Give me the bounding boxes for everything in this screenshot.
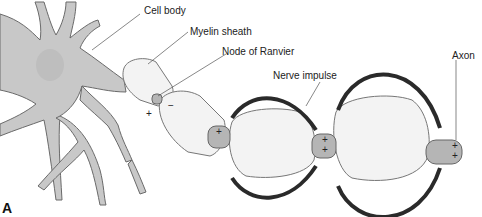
label-axon: Axon [452, 50, 475, 61]
panel-letter: A [2, 200, 12, 216]
label-nerve-impulse: Nerve impulse [273, 70, 337, 81]
nucleus [36, 49, 64, 81]
label-cell-body: Cell body [144, 5, 186, 16]
label-node-of-ranvier: Node of Ranvier [222, 46, 294, 57]
charge-plus: + [146, 108, 152, 119]
label-myelin-sheath: Myelin sheath [190, 26, 252, 37]
charge-plus: + [322, 144, 328, 155]
charge-minus: − [168, 100, 174, 111]
cell-body [0, 2, 146, 205]
charge-plus: + [216, 126, 222, 137]
charge-plus: + [452, 150, 458, 161]
